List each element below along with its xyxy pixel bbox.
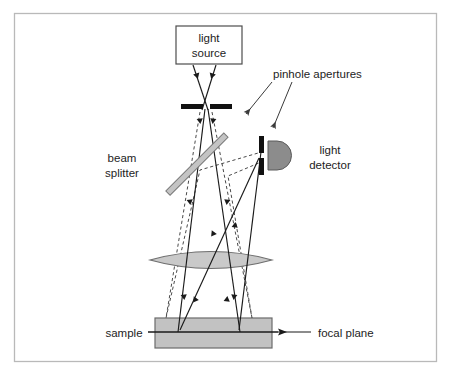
pinhole-bar-right: [210, 104, 232, 109]
figure-border: [15, 14, 437, 362]
beam-splitter-label-line2: splitter: [105, 167, 139, 179]
detector-shape: [268, 141, 292, 170]
light-detector-label-line2: detector: [309, 159, 351, 171]
sample-label: sample: [105, 327, 142, 339]
sample-body: [155, 318, 272, 348]
focal-plane-label: focal plane: [318, 327, 374, 339]
beam-splitter-label-line1: beam: [108, 152, 137, 164]
diagram-canvas: light source pinhole apertures beam spli…: [0, 0, 454, 378]
pinhole-bar-left: [181, 104, 203, 109]
light-source-label-line2: source: [192, 47, 227, 59]
pinhole-bar-upper: [259, 136, 264, 153]
light-source-box: light source: [176, 26, 242, 64]
sample-slab: [148, 318, 278, 348]
light-detector-label-line1: light: [319, 144, 341, 156]
pinhole-bar-lower: [259, 158, 264, 175]
confocal-diagram-figure: light source pinhole apertures beam spli…: [0, 0, 454, 378]
pinhole-apertures-label: pinhole apertures: [273, 68, 362, 80]
light-detector-body: [268, 141, 292, 170]
light-source-label-line1: light: [198, 32, 220, 44]
